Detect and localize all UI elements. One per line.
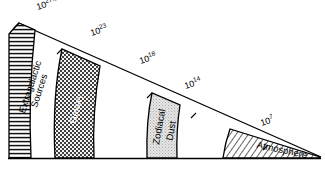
tick-exponent-4: 14	[192, 74, 201, 83]
tick-exponent-3: 18	[147, 49, 156, 58]
tick-exponent-1: 27.5	[44, 0, 58, 4]
tick-mark-4	[191, 113, 196, 118]
distance-wedge-figure: 1027.5 1023 1018 1014 107 Extragalactic …	[0, 0, 325, 179]
tick-exponent-2: 23	[98, 21, 107, 30]
